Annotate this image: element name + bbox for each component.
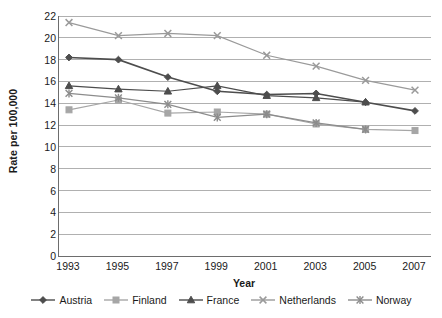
y-tick-label: 2 [20, 229, 56, 239]
line-chart: Rate per 100,000 2220181614121086420 199… [0, 0, 442, 318]
legend-marker-square-icon [103, 294, 129, 306]
data-point-square [165, 110, 171, 116]
legend-label: Austria [59, 294, 92, 306]
data-point-diamond [40, 297, 47, 304]
legend-item-austria[interactable]: Austria [30, 294, 92, 306]
data-point-square [412, 128, 418, 134]
legend-label: France [207, 294, 240, 306]
legend-marker-triangle-icon [178, 294, 204, 306]
y-tick-label: 4 [20, 207, 56, 217]
x-axis-tick-labels: 19931995199719992001200320052007 [58, 260, 430, 276]
legend-marker-cross-icon [250, 294, 276, 306]
x-tick-label: 1993 [43, 260, 93, 272]
y-tick-label: 16 [20, 76, 56, 86]
chart-legend: AustriaFinlandFranceNetherlandsNorway [0, 294, 442, 306]
x-tick-label: 2005 [340, 260, 390, 272]
legend-label: Finland [132, 294, 166, 306]
data-point-square [66, 107, 72, 113]
legend-item-france[interactable]: France [178, 294, 240, 306]
y-tick-label: 6 [20, 186, 56, 196]
x-axis-title: Year [58, 277, 430, 289]
y-tick-label: 10 [20, 142, 56, 152]
y-tick-label: 18 [20, 55, 56, 65]
legend-item-norway[interactable]: Norway [347, 294, 412, 306]
data-point-square [113, 297, 119, 303]
legend-label: Norway [376, 294, 412, 306]
x-tick-label: 2001 [241, 260, 291, 272]
y-tick-label: 22 [20, 11, 56, 21]
legend-item-netherlands[interactable]: Netherlands [250, 294, 336, 306]
y-tick-label: 14 [20, 98, 56, 108]
legend-item-finland[interactable]: Finland [103, 294, 166, 306]
y-tick-label: 12 [20, 120, 56, 130]
data-point-triangle [214, 82, 221, 89]
y-tick-label: 8 [20, 164, 56, 174]
data-point-cross [66, 19, 73, 26]
legend-marker-diamond-icon [30, 294, 56, 306]
x-tick-label: 2007 [389, 260, 439, 272]
data-point-diamond [115, 56, 122, 63]
data-point-diamond [164, 74, 171, 81]
data-point-triangle [65, 82, 72, 89]
legend-label: Netherlands [279, 294, 336, 306]
plot-area [58, 16, 431, 257]
x-tick-label: 2003 [290, 260, 340, 272]
y-tick-label: 20 [20, 33, 56, 43]
x-tick-label: 1997 [142, 260, 192, 272]
data-point-diamond [412, 108, 419, 115]
plot-svg [59, 16, 431, 256]
x-tick-label: 1995 [92, 260, 142, 272]
legend-marker-asterisk-icon [347, 294, 373, 306]
x-tick-label: 1999 [191, 260, 241, 272]
